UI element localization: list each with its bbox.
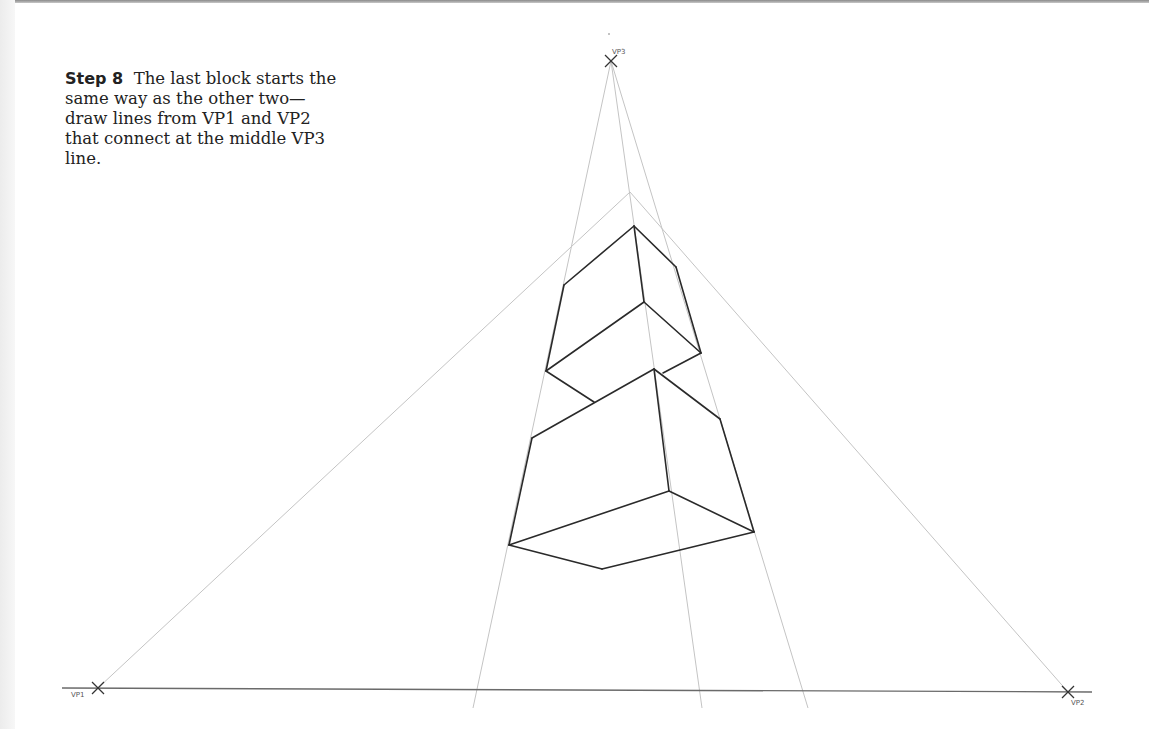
block-edge bbox=[663, 353, 701, 373]
guide-vp3-right bbox=[611, 61, 808, 708]
vp2-marker: VP2 bbox=[1062, 686, 1084, 707]
guide-lines bbox=[98, 61, 1068, 708]
guide-vp1-to-apex bbox=[98, 192, 630, 688]
horizon-line bbox=[62, 688, 1092, 692]
block-edge bbox=[654, 369, 720, 419]
vp2-label: VP2 bbox=[1071, 699, 1084, 707]
dot-marker bbox=[608, 33, 610, 35]
vp3-label: VP3 bbox=[612, 48, 625, 56]
vp1-label: VP1 bbox=[71, 691, 84, 699]
block-edge bbox=[654, 369, 669, 491]
block-edge bbox=[509, 545, 602, 569]
perspective-drawing: VP1 VP2 VP3 bbox=[0, 0, 1149, 729]
block-edge bbox=[509, 491, 669, 545]
block-edge bbox=[676, 267, 701, 353]
block-edge bbox=[546, 285, 564, 371]
block-edge bbox=[564, 226, 634, 285]
block-edge bbox=[532, 369, 654, 438]
block-edge bbox=[669, 491, 754, 532]
block-edge bbox=[546, 302, 644, 371]
block-edge bbox=[634, 226, 676, 267]
block-edge bbox=[634, 226, 644, 302]
block-edge bbox=[720, 419, 754, 532]
bottom-block bbox=[509, 369, 754, 569]
block-edge bbox=[509, 438, 532, 545]
guide-vp3-left bbox=[473, 61, 611, 708]
guide-vp2-to-apex bbox=[630, 192, 1068, 692]
top-block bbox=[546, 226, 701, 402]
vp1-marker: VP1 bbox=[71, 682, 104, 699]
vp3-cross-icon bbox=[605, 55, 617, 67]
block-edge bbox=[546, 371, 594, 402]
vp3-marker: VP3 bbox=[605, 33, 625, 67]
